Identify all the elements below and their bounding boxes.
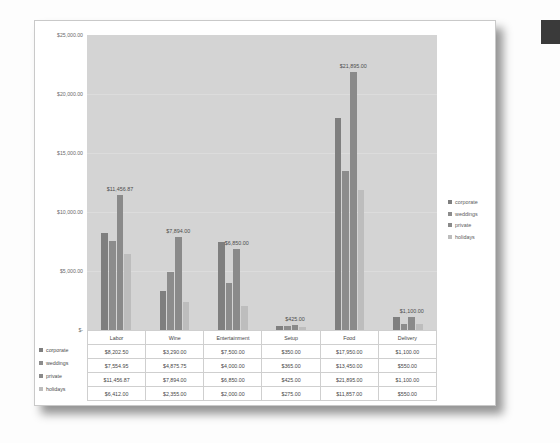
y-axis-tick-label: $10,000.00 xyxy=(57,209,83,215)
legend-swatch-icon xyxy=(448,235,452,239)
y-axis: $-$5,000.00$10,000.00$15,000.00$20,000.0… xyxy=(35,21,87,330)
column-header: Wine xyxy=(146,331,204,345)
bar-data-label: $6,850.00 xyxy=(225,240,249,246)
legend-label: holidays xyxy=(455,234,475,240)
table-cell: $2,355.00 xyxy=(146,387,204,401)
table-cell: $6,412.00 xyxy=(88,387,146,401)
data-table: LaborWineEntertainmentSetupFoodDelivery$… xyxy=(87,330,437,401)
bar-holidays[interactable] xyxy=(358,190,365,330)
table-row: $11,456.87$7,894.00$6,850.00$425.00$21,8… xyxy=(88,373,437,387)
table-cell: $1,100.00 xyxy=(378,345,436,359)
bar-corporate[interactable] xyxy=(335,118,342,330)
table-cell: $11,857.00 xyxy=(320,387,378,401)
data-table-row-header-holidays: holidays xyxy=(35,383,87,396)
bar-data-label: $21,895.00 xyxy=(340,63,367,69)
bar-group xyxy=(262,35,320,330)
legend-label: corporate xyxy=(455,199,478,205)
row-header-spacer xyxy=(35,330,87,344)
row-header-label: corporate xyxy=(46,347,68,353)
legend-item-holidays[interactable]: holidays xyxy=(448,234,494,240)
bar-weddings[interactable] xyxy=(167,272,174,330)
bar-group xyxy=(87,35,145,330)
bar-holidays[interactable] xyxy=(183,302,190,330)
bar-corporate[interactable] xyxy=(101,233,108,330)
chart-page-card: July Party Sales $-$5,000.00$10,000.00$1… xyxy=(34,20,496,406)
bar-private[interactable] xyxy=(117,195,124,330)
legend-swatch-icon xyxy=(448,200,452,204)
legend-item-corporate[interactable]: corporate xyxy=(448,199,494,205)
data-table-row-headers: corporateweddingsprivateholidays xyxy=(35,330,87,396)
accent-square xyxy=(541,20,560,44)
bar-group xyxy=(204,35,262,330)
table-header-row: LaborWineEntertainmentSetupFoodDelivery xyxy=(88,331,437,345)
table-cell: $3,290.00 xyxy=(146,345,204,359)
data-table-row-header-private: private xyxy=(35,370,87,383)
row-header-label: weddings xyxy=(46,360,68,366)
bar-group xyxy=(145,35,203,330)
data-table-row-header-corporate: corporate xyxy=(35,344,87,357)
legend-label: private xyxy=(455,222,471,228)
column-header: Delivery xyxy=(378,331,436,345)
table-row: $6,412.00$2,355.00$2,000.00$275.00$11,85… xyxy=(88,387,437,401)
bar-group xyxy=(320,35,378,330)
column-header: Setup xyxy=(262,331,320,345)
bar-weddings[interactable] xyxy=(109,241,116,330)
y-axis-tick-label: $25,000.00 xyxy=(57,32,83,38)
table-row: $7,554.95$4,875.75$4,000.00$365.00$13,45… xyxy=(88,359,437,373)
table-cell: $7,500.00 xyxy=(204,345,262,359)
legend-label: weddings xyxy=(455,211,478,217)
legend-item-private[interactable]: private xyxy=(448,222,494,228)
table-cell: $7,554.95 xyxy=(88,359,146,373)
bar-corporate[interactable] xyxy=(218,242,225,331)
column-header: Food xyxy=(320,331,378,345)
row-header-swatch-icon xyxy=(39,374,43,378)
bar-corporate[interactable] xyxy=(160,291,167,330)
table-cell: $8,202.50 xyxy=(88,345,146,359)
row-header-swatch-icon xyxy=(39,348,43,352)
bar-data-label: $7,894.00 xyxy=(166,228,190,234)
table-cell: $550.00 xyxy=(378,387,436,401)
bar-data-label: $425.00 xyxy=(285,316,305,322)
table-cell: $425.00 xyxy=(262,373,320,387)
bar-weddings[interactable] xyxy=(226,283,233,330)
bar-private[interactable] xyxy=(350,72,357,330)
bar-holidays[interactable] xyxy=(124,254,131,330)
table-cell: $13,450.00 xyxy=(320,359,378,373)
table-cell: $1,100.00 xyxy=(378,373,436,387)
legend-swatch-icon xyxy=(448,223,452,227)
table-cell: $350.00 xyxy=(262,345,320,359)
chart-legend: corporateweddingsprivateholidays xyxy=(448,199,494,245)
table-cell: $7,894.00 xyxy=(146,373,204,387)
table-cell: $11,456.87 xyxy=(88,373,146,387)
bar-private[interactable] xyxy=(175,237,182,330)
data-table-row-header-weddings: weddings xyxy=(35,357,87,370)
table-cell: $550.00 xyxy=(378,359,436,373)
bar-chart: July Party Sales $-$5,000.00$10,000.00$1… xyxy=(35,21,495,405)
legend-swatch-icon xyxy=(448,212,452,216)
column-header: Entertainment xyxy=(204,331,262,345)
table-cell: $365.00 xyxy=(262,359,320,373)
table-cell: $21,895.00 xyxy=(320,373,378,387)
y-axis-tick-label: $15,000.00 xyxy=(57,150,83,156)
column-header: Labor xyxy=(88,331,146,345)
bar-private[interactable] xyxy=(233,249,240,330)
bar-series-container: $11,456.87$7,894.00$6,850.00$425.00$21,8… xyxy=(87,35,437,330)
row-header-swatch-icon xyxy=(39,361,43,365)
table-cell: $275.00 xyxy=(262,387,320,401)
row-header-label: private xyxy=(46,373,62,379)
y-axis-tick-label: $20,000.00 xyxy=(57,91,83,97)
bar-weddings[interactable] xyxy=(342,171,349,330)
row-header-swatch-icon xyxy=(39,387,43,391)
table-cell: $2,000.00 xyxy=(204,387,262,401)
table-cell: $17,950.00 xyxy=(320,345,378,359)
bar-private[interactable] xyxy=(408,317,415,330)
bar-corporate[interactable] xyxy=(393,317,400,330)
legend-item-weddings[interactable]: weddings xyxy=(448,211,494,217)
table-cell: $6,850.00 xyxy=(204,373,262,387)
bar-data-label: $1,100.00 xyxy=(400,308,424,314)
table-cell: $4,875.75 xyxy=(146,359,204,373)
y-axis-tick-label: $5,000.00 xyxy=(60,268,83,274)
table-row: $8,202.50$3,290.00$7,500.00$350.00$17,95… xyxy=(88,345,437,359)
bar-data-label: $11,456.87 xyxy=(107,186,134,192)
bar-holidays[interactable] xyxy=(241,306,248,330)
